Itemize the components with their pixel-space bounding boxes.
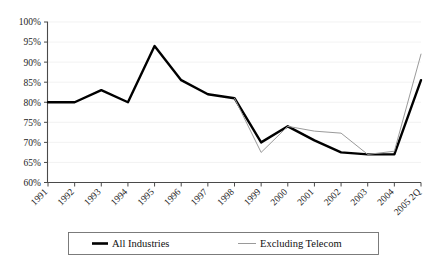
y-tick-label: 65% (24, 158, 42, 168)
chart-legend: All Industries Excluding Telecom (69, 233, 379, 255)
x-tick-label: 1996 (162, 187, 183, 208)
x-tick-label: 2000 (269, 187, 290, 208)
y-tick-label: 75% (24, 118, 42, 128)
y-tick-label: 90% (24, 58, 42, 68)
line-chart: 100%95%90%85%80%75%70%65%60% 19911992199… (0, 0, 446, 262)
x-tick-label: 2002 (322, 187, 343, 208)
y-tick-label: 80% (24, 98, 42, 108)
y-axis-tick-labels: 100%95%90%85%80%75%70%65%60% (19, 17, 41, 188)
x-tick-label: 2004 (375, 187, 396, 208)
x-tick-label: 1999 (242, 187, 263, 208)
chart-container: 100%95%90%85%80%75%70%65%60% 19911992199… (0, 0, 446, 262)
x-tick-label: 2003 (349, 187, 370, 208)
x-tick-label: 2001 (295, 187, 316, 208)
x-axis-tick-marks (48, 183, 421, 187)
y-tick-label: 85% (24, 78, 42, 88)
y-tick-label: 70% (24, 138, 42, 148)
series-line-excluding-telecom (235, 54, 422, 154)
y-tick-label: 60% (24, 178, 42, 188)
y-tick-label: 100% (19, 17, 41, 27)
x-tick-label: 1992 (56, 187, 77, 208)
x-tick-label: 1993 (82, 187, 103, 208)
gridlines (44, 22, 421, 183)
x-tick-label: 2005 2Q (392, 187, 422, 217)
x-tick-label: 1991 (29, 187, 50, 208)
x-axis-tick-labels: 1991199219931994199519961997199819992000… (29, 187, 423, 218)
y-tick-label: 95% (24, 37, 42, 47)
legend-label-excluding-telecom: Excluding Telecom (260, 238, 342, 249)
x-tick-label: 1997 (189, 187, 210, 208)
x-tick-label: 1994 (109, 187, 130, 208)
x-tick-label: 1995 (135, 187, 156, 208)
legend-label-all-industries: All Industries (112, 238, 169, 249)
x-tick-label: 1998 (215, 187, 236, 208)
